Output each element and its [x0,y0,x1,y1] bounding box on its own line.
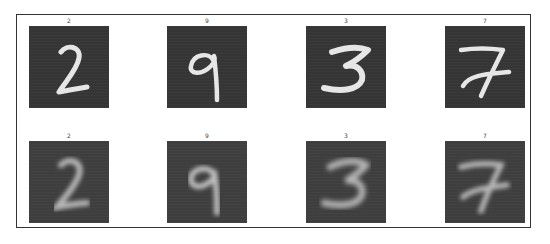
digit-image-original-2 [29,26,109,108]
digit-image-reconstruction-3 [306,141,386,223]
digit-image-reconstruction-7 [445,141,525,223]
tile-label: 7 [445,17,525,24]
tile-label: 7 [445,132,525,139]
tile-label: 9 [167,17,247,24]
tile-label: 2 [29,17,109,24]
digit-image-reconstruction-9 [167,141,247,223]
digit-image-reconstruction-2 [29,141,109,223]
digit-image-original-9 [167,26,247,108]
tile-label: 2 [29,132,109,139]
tile-label: 3 [306,17,386,24]
tile-label: 3 [306,132,386,139]
tile-label: 9 [167,132,247,139]
digit-image-original-7 [445,26,525,108]
digit-image-original-3 [306,26,386,108]
